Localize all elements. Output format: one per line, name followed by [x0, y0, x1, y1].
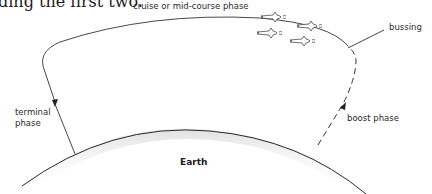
- missile-icon: [297, 21, 322, 31]
- bussing-leader: [348, 30, 384, 48]
- boost-arrow-head: [340, 102, 346, 110]
- earth-label: Earth: [180, 157, 207, 168]
- diagram-drawing: [0, 0, 432, 194]
- terminal-arrow-head: [52, 99, 58, 107]
- missile-icon: [257, 28, 282, 38]
- terminal-phase-label-line1: terminal: [15, 107, 51, 117]
- missile-icon: [290, 36, 315, 46]
- terminal-phase-label-line2: phase: [15, 118, 41, 128]
- boost-path: [318, 46, 356, 145]
- boost-phase-label: boost phase: [347, 113, 399, 123]
- bussing-label: bussing: [389, 22, 422, 32]
- terminal-line: [55, 104, 75, 154]
- cruise-phase-label: cruise or mid-course phase: [133, 1, 249, 11]
- trajectory-arc: [43, 17, 348, 102]
- icbm-trajectory-diagram: ding the first two.: [0, 0, 432, 194]
